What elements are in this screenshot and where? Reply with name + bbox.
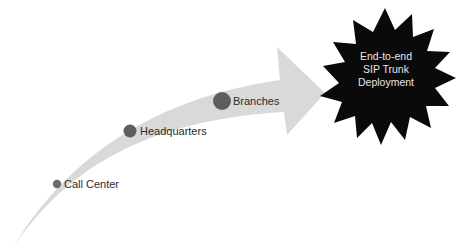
diagram-canvas xyxy=(0,0,460,248)
milestone-label-branches: Branches xyxy=(233,96,279,107)
goal-line-1: End-to-end xyxy=(345,50,427,63)
milestone-label-headquarters: Headquarters xyxy=(140,126,207,137)
goal-line-2: SIP Trunk xyxy=(345,63,427,76)
goal-text: End-to-end SIP Trunk Deployment xyxy=(345,50,427,89)
milestone-dot-headquarters xyxy=(124,125,137,138)
milestone-label-call-center: Call Center xyxy=(64,179,119,190)
progress-arrow xyxy=(14,47,325,246)
goal-line-3: Deployment xyxy=(345,76,427,89)
milestone-dot-branches xyxy=(213,92,231,110)
milestone-dot-call-center xyxy=(53,180,61,188)
